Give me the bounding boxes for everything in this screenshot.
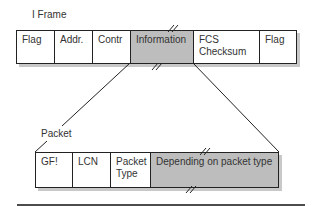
break-mark-icon [186, 148, 210, 193]
expansion-line-left-lower [35, 141, 47, 152]
connector-lines [0, 0, 313, 206]
break-mark-icon [152, 25, 178, 70]
expansion-line-right [193, 63, 279, 152]
expansion-line-left [62, 63, 130, 126]
